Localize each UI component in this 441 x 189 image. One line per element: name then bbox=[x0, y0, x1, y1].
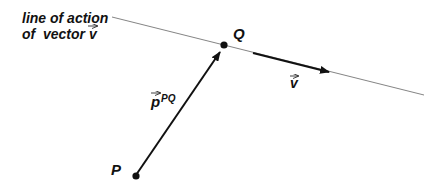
vector-v-arrow bbox=[253, 53, 329, 72]
vector-p-superscript: PQ bbox=[161, 93, 176, 104]
caption-line-2: of vector bbox=[22, 26, 87, 42]
vector-pq-arrow bbox=[136, 52, 220, 175]
vector-p-label: p bbox=[150, 93, 160, 110]
point-p-label: P bbox=[111, 161, 122, 178]
point-p-dot bbox=[132, 172, 139, 179]
vector-v-label: v bbox=[290, 75, 299, 91]
point-q-dot bbox=[220, 41, 227, 48]
caption-line-1: line of action bbox=[22, 10, 108, 26]
vector-diagram: line of action of vector v Q v p PQ P bbox=[0, 0, 441, 189]
point-q-label: Q bbox=[233, 25, 245, 42]
caption-vector-v: v bbox=[89, 26, 98, 42]
